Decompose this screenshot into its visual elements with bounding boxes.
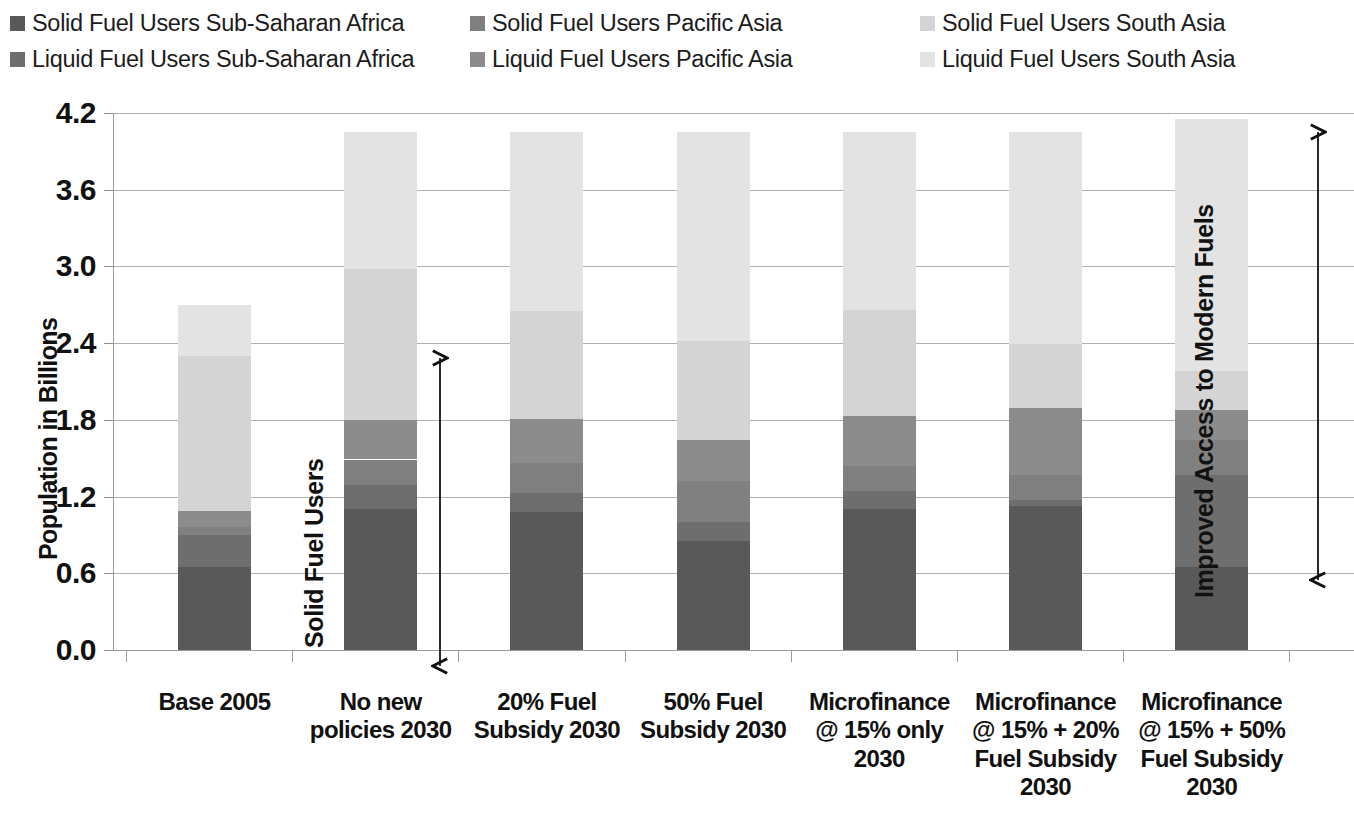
x-tickmark (126, 651, 127, 662)
category-label-5: Microfinance@ 15% + 20%Fuel Subsidy2030 (956, 688, 1136, 801)
bar-segment-solid_pac (344, 460, 417, 486)
y-tickmark (104, 497, 113, 498)
category-label-line: Microfinance (956, 688, 1136, 716)
bar-segment-liquid_south (178, 305, 251, 356)
bar-segment-solid_ssa (677, 541, 750, 650)
category-label-line: Base 2005 (125, 688, 305, 716)
bar-segment-solid_pac (843, 466, 916, 492)
bar-1 (344, 132, 417, 650)
category-label-line: Microfinance (789, 688, 969, 716)
bar-segment-solid_ssa (178, 567, 251, 650)
y-tickmark (104, 343, 113, 344)
bar-segment-liquid_ssa (1009, 500, 1082, 505)
category-label-0: Base 2005 (125, 688, 305, 716)
category-label-line: 2030 (1122, 773, 1302, 801)
x-tickmark (1123, 651, 1124, 662)
bar-segment-solid_pac (510, 463, 583, 492)
bar-segment-solid_pac (677, 481, 750, 522)
x-axis-line (113, 650, 1354, 651)
chart-plot-area: Population in Billions 4.23.63.02.41.81.… (0, 0, 1354, 818)
bar-segment-liquid_pac (843, 416, 916, 466)
bar-segment-solid_south (677, 341, 750, 441)
bar-3 (677, 132, 750, 650)
bar-4 (843, 132, 916, 650)
bar-segment-liquid_ssa (843, 491, 916, 509)
category-label-4: Microfinance@ 15% only2030 (789, 688, 969, 773)
y-axis-label: 2.4 (0, 326, 96, 360)
y-tickmark (104, 650, 113, 651)
category-label-line: 20% Fuel (457, 688, 637, 716)
y-axis-label: 3.6 (0, 173, 96, 207)
bar-segment-solid_ssa (510, 512, 583, 650)
x-tickmark (292, 651, 293, 662)
bar-segment-liquid_south (843, 132, 916, 310)
y-tickmark (104, 113, 113, 114)
bar-segment-solid_south (344, 269, 417, 420)
annotation-solid-fuel-users: Solid Fuel Users (300, 459, 329, 649)
bar-0 (178, 305, 251, 650)
category-label-line: policies 2030 (291, 716, 471, 744)
double-arrow-left-icon (420, 348, 460, 678)
y-tickmark (104, 420, 113, 421)
y-axis-label: 0.0 (0, 633, 96, 667)
bar-segment-liquid_south (510, 132, 583, 311)
bar-segment-solid_south (510, 311, 583, 418)
y-axis-label: 3.0 (0, 249, 96, 283)
double-arrow-right-icon (1298, 122, 1338, 592)
y-tickmark (104, 190, 113, 191)
x-tickmark (1289, 651, 1290, 662)
bar-segment-solid_south (843, 310, 916, 416)
category-label-6: Microfinance@ 15% + 50%Fuel Subsidy2030 (1122, 688, 1302, 801)
bar-segment-solid_ssa (344, 509, 417, 650)
bar-segment-liquid_ssa (677, 522, 750, 541)
category-label-line: Fuel Subsidy (1122, 745, 1302, 773)
category-label-line: Fuel Subsidy (956, 745, 1136, 773)
x-tickmark (791, 651, 792, 662)
bar-2 (510, 132, 583, 650)
bar-segment-solid_pac (178, 527, 251, 535)
bar-5 (1009, 132, 1082, 650)
category-label-line: 50% Fuel (623, 688, 803, 716)
category-label-1: No newpolicies 2030 (291, 688, 471, 745)
bar-segment-liquid_ssa (510, 493, 583, 512)
bar-segment-liquid_pac (510, 419, 583, 464)
y-axis-label: 1.2 (0, 480, 96, 514)
bar-segment-solid_south (1009, 344, 1082, 408)
gridline (113, 113, 1354, 114)
bar-segment-solid_south (178, 356, 251, 511)
bar-segment-liquid_south (677, 132, 750, 340)
bar-segment-liquid_ssa (344, 485, 417, 509)
category-label-line: Subsidy 2030 (623, 716, 803, 744)
y-tickmark (104, 266, 113, 267)
bar-segment-solid_ssa (1009, 506, 1082, 650)
x-tickmark (625, 651, 626, 662)
y-axis-label: 1.8 (0, 403, 96, 437)
bar-segment-liquid_south (344, 132, 417, 269)
x-tickmark (957, 651, 958, 662)
category-label-line: @ 15% only (789, 716, 969, 744)
bar-segment-solid_ssa (843, 509, 916, 650)
bar-segment-liquid_pac (178, 511, 251, 528)
bar-segment-solid_pac (1009, 475, 1082, 501)
bar-segment-liquid_south (1009, 132, 1082, 344)
category-label-line: No new (291, 688, 471, 716)
category-label-line: @ 15% + 50% (1122, 716, 1302, 744)
bar-segment-liquid_pac (677, 440, 750, 481)
bar-segment-liquid_pac (344, 420, 417, 460)
category-label-3: 50% FuelSubsidy 2030 (623, 688, 803, 745)
bar-segment-liquid_ssa (178, 535, 251, 567)
y-tickmark (104, 573, 113, 574)
bar-segment-liquid_pac (1009, 408, 1082, 474)
category-label-line: Microfinance (1122, 688, 1302, 716)
y-axis-label: 0.6 (0, 556, 96, 590)
annotation-improved-access: Improved Access to Modern Fuels (1190, 204, 1219, 598)
category-label-line: 2030 (789, 745, 969, 773)
y-axis-line (113, 113, 114, 651)
category-label-line: Subsidy 2030 (457, 716, 637, 744)
y-axis-label: 4.2 (0, 96, 96, 130)
category-label-line: 2030 (956, 773, 1136, 801)
category-label-line: @ 15% + 20% (956, 716, 1136, 744)
category-label-2: 20% FuelSubsidy 2030 (457, 688, 637, 745)
